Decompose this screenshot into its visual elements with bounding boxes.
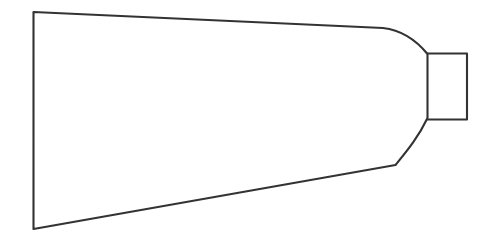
- drawing-background: [0, 0, 492, 242]
- figure-canvas: [0, 0, 492, 242]
- vessel-outline-drawing: [0, 0, 492, 242]
